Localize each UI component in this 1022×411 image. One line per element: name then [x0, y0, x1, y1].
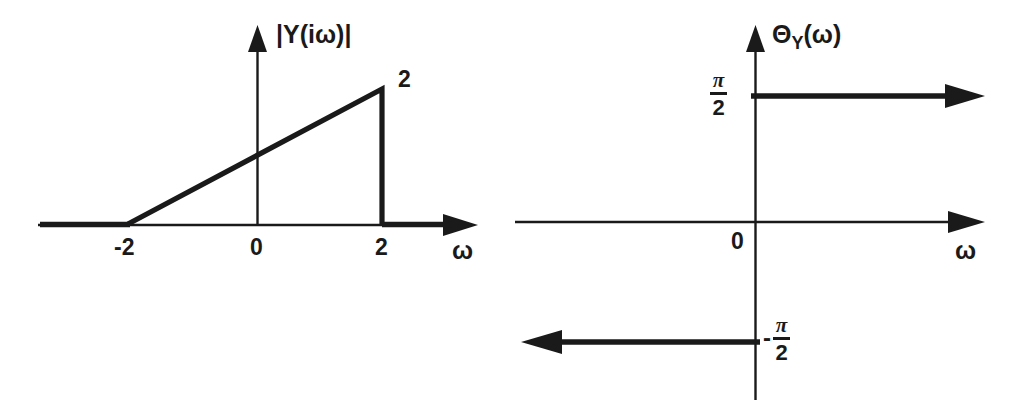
left-peak-value-label: 2 — [398, 68, 411, 91]
pi-over-two-numerator: π — [711, 70, 726, 92]
negative-phase-ray-arrowhead — [521, 330, 562, 354]
left-x-axis-label: ω — [452, 238, 473, 263]
magnitude-spectrum-plot — [0, 0, 511, 411]
right-x-axis-arrowhead — [948, 211, 985, 233]
left-y-axis-arrowhead — [248, 25, 267, 52]
right-y-axis-label-argument: (ω) — [803, 20, 841, 48]
right-y-axis-label: ΘY(ω) — [772, 22, 841, 52]
negative-pi-over-two-fraction: π 2 — [773, 315, 790, 364]
right-y-axis-arrowhead — [746, 25, 765, 52]
negative-pi-over-two-denominator: 2 — [773, 340, 789, 364]
left-y-axis-label: |Y(iω)| — [276, 22, 351, 47]
left-xtick-zero: 0 — [250, 236, 263, 259]
left-xtick-minus-two: -2 — [114, 236, 134, 259]
right-xtick-zero: 0 — [731, 230, 744, 253]
ytick-pi-over-two: π 2 — [710, 70, 727, 119]
left-xtick-two: 2 — [375, 236, 388, 259]
pi-over-two-denominator: 2 — [710, 95, 726, 119]
negative-pi-over-two-numerator: π — [774, 315, 789, 337]
figure-canvas: |Y(iω)| 2 -2 0 2 ω ΘY(ω) π 2 0 - π — [0, 0, 1022, 411]
right-x-axis-label: ω — [955, 238, 976, 263]
magnitude-ramp-curve — [128, 89, 382, 224]
negative-sign: - — [763, 324, 771, 352]
right-y-axis-label-theta: Θ — [772, 20, 791, 48]
ytick-negative-pi-over-two: - π 2 — [763, 315, 790, 364]
positive-phase-ray-arrowhead — [945, 84, 985, 108]
right-y-axis-label-subscript: Y — [791, 33, 803, 53]
